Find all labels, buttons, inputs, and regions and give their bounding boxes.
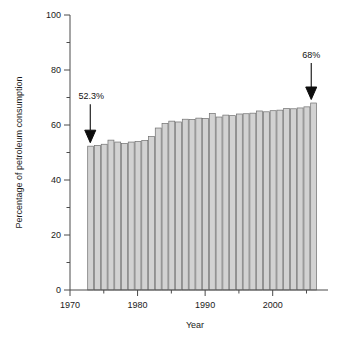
y-axis-title: Percentage of petroleum consumption: [14, 76, 24, 228]
bar: [277, 110, 283, 290]
petroleum-consumption-chart: 0204060801001970198019902000YearPercenta…: [0, 0, 350, 339]
x-tick-label: 2000: [263, 300, 283, 310]
bar: [304, 107, 310, 290]
bar: [270, 111, 276, 290]
bar: [108, 140, 114, 290]
x-tick-label: 1980: [128, 300, 148, 310]
bar: [216, 117, 222, 290]
bar: [149, 137, 155, 290]
bar: [189, 120, 195, 291]
bar: [182, 119, 188, 290]
bar: [88, 146, 94, 290]
bar: [196, 118, 202, 290]
bar: [250, 113, 256, 290]
y-tick-label: 20: [51, 230, 61, 240]
bar: [230, 116, 236, 290]
bar: [311, 103, 317, 290]
bar: [209, 113, 215, 290]
y-tick-label: 0: [56, 285, 61, 295]
bar: [155, 128, 161, 290]
annotation-arrow-head-start: [85, 130, 96, 143]
bar: [162, 123, 168, 290]
bar: [135, 142, 141, 291]
bar: [101, 144, 107, 290]
annotation-label-end: 68%: [302, 50, 320, 60]
bar: [115, 142, 121, 290]
y-tick-label: 60: [51, 120, 61, 130]
bar: [121, 143, 127, 290]
annotation-arrow-head-end: [306, 87, 317, 100]
bar: [203, 118, 209, 290]
bar: [243, 114, 249, 290]
x-tick-label: 1970: [60, 300, 80, 310]
bar: [257, 111, 263, 290]
x-axis-title: Year: [186, 320, 204, 330]
bar: [223, 115, 229, 290]
bar: [176, 122, 182, 290]
bar: [128, 142, 134, 290]
bar: [290, 109, 296, 290]
y-tick-label: 40: [51, 175, 61, 185]
bar: [236, 114, 242, 290]
bar: [142, 140, 148, 290]
y-tick-label: 80: [51, 65, 61, 75]
bar: [169, 121, 175, 290]
bar: [297, 108, 303, 290]
bar-series: [88, 103, 317, 290]
annotation-label-start: 52.3%: [79, 91, 105, 101]
bar: [263, 112, 269, 290]
bar: [284, 109, 290, 291]
chart-canvas: 0204060801001970198019902000YearPercenta…: [0, 0, 350, 339]
y-tick-label: 100: [46, 10, 61, 20]
bar: [94, 145, 100, 290]
x-tick-label: 1990: [195, 300, 215, 310]
